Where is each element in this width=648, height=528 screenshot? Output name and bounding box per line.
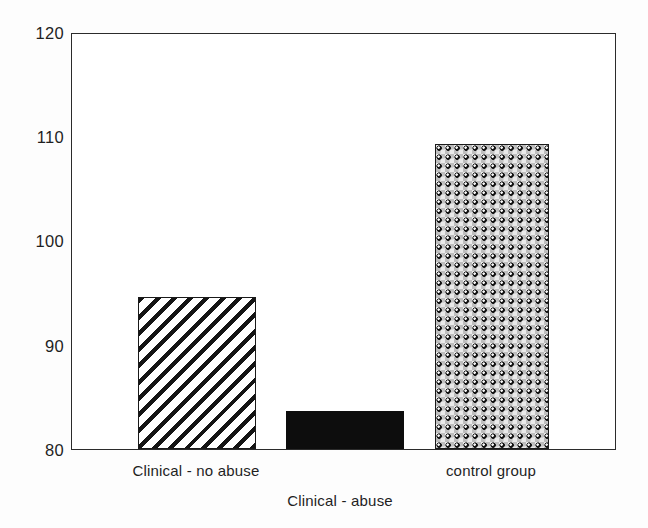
y-axis: 120 110 100 90 80 [12, 0, 64, 528]
y-tick-label-80: 80 [18, 441, 64, 460]
bar-chart: 120 110 100 90 80 Clinical - no abuse co… [0, 0, 648, 528]
bar-clinical-no-abuse [138, 297, 256, 450]
y-tick-label-120: 120 [18, 24, 64, 43]
bar-clinical-abuse [286, 411, 404, 449]
x-tick-label-clinical-abuse: Clinical - abuse [287, 492, 393, 509]
plot-area [71, 33, 616, 450]
x-tick-label-clinical-no-abuse: Clinical - no abuse [132, 462, 259, 479]
bar-control-group [435, 144, 549, 449]
y-tick-label-90: 90 [18, 337, 64, 356]
y-tick-label-100: 100 [18, 232, 64, 251]
x-tick-label-control-group: control group [446, 462, 536, 479]
y-tick-label-110: 110 [18, 128, 64, 147]
